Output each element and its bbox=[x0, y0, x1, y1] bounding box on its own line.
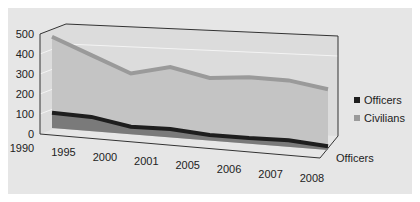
y-tick-label: 200 bbox=[16, 88, 34, 100]
x-tick-label: 2000 bbox=[93, 151, 117, 163]
legend-label-officers: Officers bbox=[364, 94, 402, 106]
x-tick-label: 2001 bbox=[134, 155, 158, 167]
chart-frame: 0100200300400500 19901995200020012005200… bbox=[8, 8, 412, 194]
legend-label-civilians: Civilians bbox=[364, 112, 405, 124]
legend-swatch-civilians bbox=[354, 115, 360, 121]
y-tick-label: 100 bbox=[16, 108, 34, 120]
x-tick-label: 2008 bbox=[300, 172, 324, 184]
y-tick-label: 400 bbox=[16, 48, 34, 60]
x-tick-label: 1995 bbox=[51, 146, 75, 158]
x-tick-label: 2005 bbox=[175, 159, 199, 171]
x-tick-label: 1990 bbox=[10, 142, 34, 154]
y-axis-ticks: 0100200300400500 bbox=[16, 28, 34, 140]
depth-axis-label: Officers bbox=[336, 152, 374, 164]
chart-svg: 0100200300400500 19901995200020012005200… bbox=[8, 8, 412, 194]
y-tick-label: 0 bbox=[28, 128, 34, 140]
x-tick-label: 2007 bbox=[258, 168, 282, 180]
legend-swatch-officers bbox=[354, 97, 360, 103]
y-tick-label: 300 bbox=[16, 68, 34, 80]
x-tick-label: 2006 bbox=[217, 163, 241, 175]
legend: Officers Civilians bbox=[354, 94, 405, 124]
y-tick-label: 500 bbox=[16, 28, 34, 40]
x-axis-ticks: 19901995200020012005200620072008 bbox=[10, 142, 324, 184]
